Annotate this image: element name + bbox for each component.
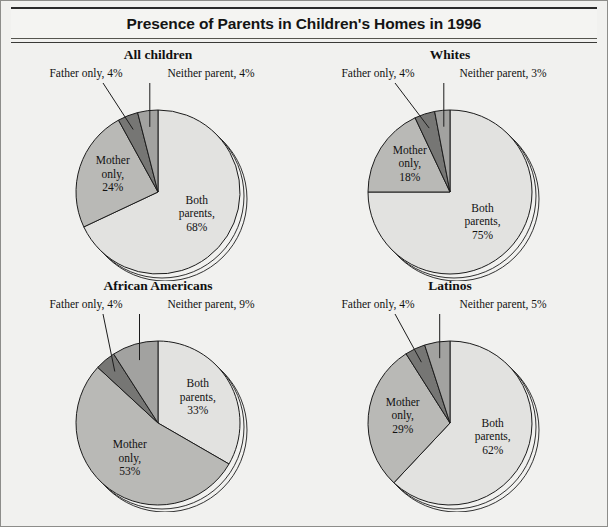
pie-panel-whites: Whites Bothparents,75%Motheronly,18%Fath… — [303, 45, 597, 281]
pie-chart-svg: Bothparents,33%Motheronly,53%Father only… — [11, 276, 305, 512]
pie-panel-latinos: Latinos Bothparents,62%Motheronly,29%Fat… — [303, 276, 597, 512]
callout-label-neither-parent: Neither parent, 3% — [459, 67, 547, 80]
callout-label-father-only: Father only, 4% — [49, 298, 122, 311]
pie-panel-all-children: All children Bothparents,68%Motheronly,2… — [11, 45, 305, 281]
title-block: Presence of Parents in Children's Homes … — [11, 7, 597, 39]
callout-label-father-only: Father only, 4% — [49, 67, 122, 80]
callout-label-father-only: Father only, 4% — [341, 298, 414, 311]
page-title: Presence of Parents in Children's Homes … — [127, 15, 482, 33]
pie-chart-svg: Bothparents,62%Motheronly,29%Father only… — [303, 276, 597, 512]
callout-label-neither-parent: Neither parent, 9% — [167, 298, 255, 311]
callout-label-neither-parent: Neither parent, 4% — [167, 67, 255, 80]
pie-chart-svg: Bothparents,68%Motheronly,24%Father only… — [11, 45, 305, 281]
title-divider — [11, 42, 597, 43]
pie-panel-african-americans: African Americans Bothparents,33%Mothero… — [11, 276, 305, 512]
figure-container: Presence of Parents in Children's Homes … — [0, 0, 608, 527]
callout-label-neither-parent: Neither parent, 5% — [459, 298, 547, 311]
callout-label-father-only: Father only, 4% — [341, 67, 414, 80]
pie-chart-svg: Bothparents,75%Motheronly,18%Father only… — [303, 45, 597, 281]
